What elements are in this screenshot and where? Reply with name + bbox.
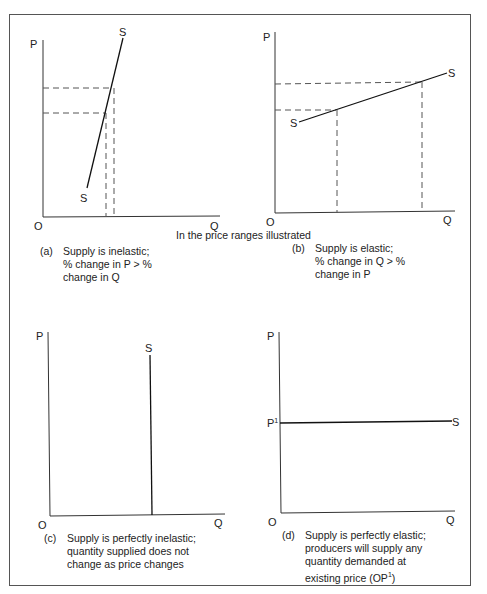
price-range-note: In the price ranges illustrated [0,229,487,241]
panel-b-y-label: P [263,31,270,43]
panel-b-price-guide-high [275,82,422,84]
panel-d-price-label: P1 [267,417,278,429]
panel-d-caption: (d) Supply is perfectly elastic; produce… [282,529,472,585]
panel-d-tag: (d) [282,529,295,542]
panel-c-curve-label: S [145,342,152,354]
panel-c-x-axis [50,514,225,516]
panel-d-chart: P P1 O Q S [267,330,459,528]
panel-c-supply-curve [150,355,152,515]
panel-a-caption: (a) Supply is inelastic; % change in P >… [40,245,230,284]
panel-c-chart: P O Q S [36,330,225,531]
panel-c-y-label: P [36,330,43,342]
panel-b-x-axis [275,211,455,213]
panel-a-y-label: P [30,38,37,50]
panel-b-origin-label: O [266,216,275,228]
panel-d-x-label: Q [446,514,455,526]
panel-c-tag: (c) [44,532,56,545]
panel-b-chart: P O Q S S [263,31,455,228]
panel-a-supply-curve [87,38,123,188]
panel-d-x-axis [281,511,455,513]
panel-d-curve-label: S [452,416,459,428]
panel-a-curve-label-end: S [119,26,126,38]
panel-b-curve-label-start: S [290,117,297,129]
panel-a-chart: P O Q S S [30,26,220,232]
panel-d-y-label: P [267,330,274,342]
panel-c-x-label: Q [214,517,223,529]
panel-b-tag: (b) [292,242,305,255]
panel-a-x-axis [43,216,220,217]
panel-a-curve-label-start: S [80,192,87,204]
panel-c-caption: (c) Supply is perfectly inelastic; quant… [44,532,244,571]
panel-c-origin-label: O [38,519,47,531]
panel-b-x-label: Q [443,214,452,226]
panel-b-supply-curve [299,73,447,122]
panel-a-tag: (a) [40,245,53,258]
panel-d-origin-label: O [268,516,277,528]
panel-b-curve-label-end: S [448,67,455,79]
panel-d-supply-curve [280,421,452,423]
elasticity-diagrams: P O Q S S P O Q S S P O Q S P P1 O Q [0,0,487,594]
panel-c-y-axis [48,332,50,516]
panel-b-caption: (b) Supply is elastic; % change in Q > %… [292,242,482,281]
